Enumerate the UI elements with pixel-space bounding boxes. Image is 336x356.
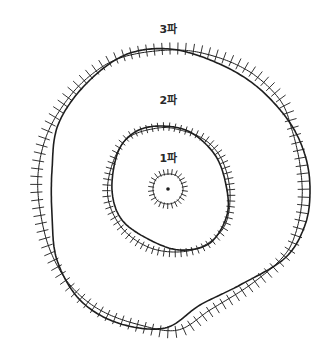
wave-diagram: 1파 2파 3파 bbox=[0, 0, 336, 356]
epicenter-dot bbox=[166, 187, 170, 191]
wave-3-label: 3파 bbox=[159, 20, 176, 36]
wave-3-front bbox=[30, 43, 310, 339]
wave-diagram-canvas bbox=[0, 0, 336, 356]
wave-2-label: 2파 bbox=[159, 91, 176, 107]
smooth-wavefront-line bbox=[51, 49, 310, 330]
wave-1-label: 1파 bbox=[159, 149, 176, 165]
